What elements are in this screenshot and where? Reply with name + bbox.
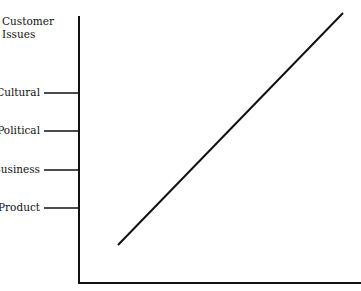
- trend-line: [118, 13, 343, 245]
- diagram: Customer Issues Cultural Political Busin…: [0, 0, 361, 291]
- diagram-graphics: [0, 0, 361, 291]
